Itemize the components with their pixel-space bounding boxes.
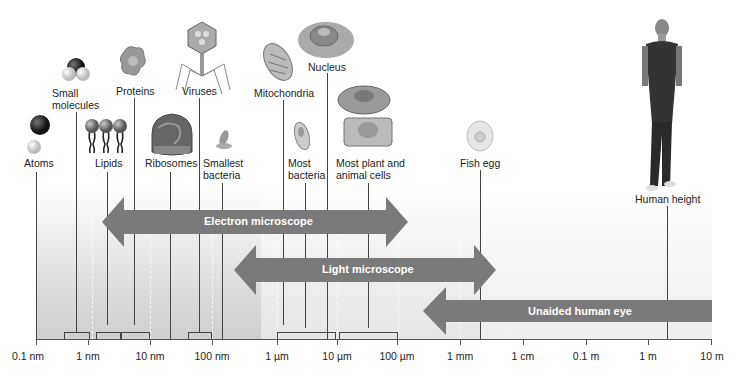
line-lipids [107,172,108,325]
label-small-molecules-1: Small [52,87,78,99]
label-cells-1: Most plant and [336,157,405,169]
scale-axis [36,339,712,340]
axis-tick [277,339,278,345]
molecule-icon [62,56,90,84]
tick-label: 10 nm [135,350,164,362]
axis-tick [523,339,524,345]
line-small-molecules [76,112,77,332]
label-small-molecules-2: molecules [52,99,99,111]
bacterium-icon [290,120,314,154]
tick-label: 10 µm [322,350,351,362]
axis-tick [648,339,649,345]
axis-tick [397,339,398,345]
cells-icon [336,84,396,152]
axis-tick [460,339,461,345]
lipid-icon [84,118,128,154]
label-fish-egg: Fish egg [460,157,500,169]
axis-tick [212,339,213,345]
axis-tick [150,339,151,345]
axis-tick [36,339,37,345]
label-most-bacteria-1: Most [288,157,311,169]
label-lipids: Lipids [95,157,122,169]
human-figure-icon [636,14,686,194]
tick-label: 1 mm [447,350,473,362]
light-microscope-label: Light microscope [322,263,414,275]
label-viruses: Viruses [182,85,217,97]
label-smallest-bacteria-1: Smallest [203,157,243,169]
fish-egg-icon [466,120,494,152]
atom-spheres-icon [26,113,54,157]
tick-label: 1 µm [265,350,289,362]
mitochondrion-icon [258,40,300,86]
tick-label: 100 µm [379,350,414,362]
axis-tick [88,339,89,345]
tick-label: 100 nm [194,350,229,362]
label-ribosomes: Ribosomes [145,157,198,169]
tick-label: 0.1 nm [12,350,44,362]
axis-tick [586,339,587,345]
tick-label: 10 m [700,350,723,362]
tick-label: 0.1 m [573,350,599,362]
ribosome-icon [148,110,196,158]
electron-microscope-label: Electron microscope [204,215,313,227]
small-bacterium-icon [214,128,234,152]
label-mitochondria: Mitochondria [254,87,314,99]
axis-tick [337,339,338,345]
tick-label: 1 nm [76,350,99,362]
unaided-eye-label: Unaided human eye [528,305,632,317]
decade-line [92,200,93,339]
label-human-height: Human height [635,193,700,205]
tick-label: 1 m [639,350,657,362]
label-atoms: Atoms [24,157,54,169]
line-atoms [36,172,37,339]
label-most-bacteria-2: bacteria [288,169,325,181]
label-nucleus: Nucleus [308,61,346,73]
label-proteins: Proteins [116,85,155,97]
protein-icon [118,44,148,80]
axis-tick [711,339,712,345]
label-smallest-bacteria-2: bacteria [203,169,240,181]
nucleus-icon [296,18,356,62]
tick-label: 1 cm [512,350,535,362]
label-cells-2: animal cells [336,169,391,181]
